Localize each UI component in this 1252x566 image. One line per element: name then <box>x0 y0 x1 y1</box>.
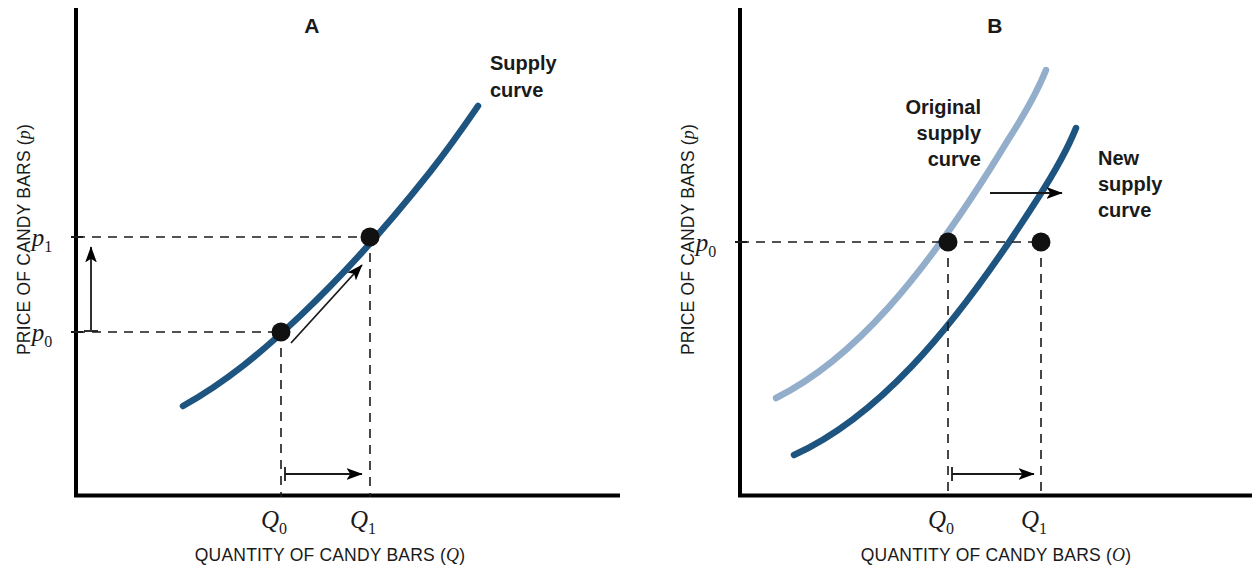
x-tick-label-q0: Q0 <box>928 506 954 537</box>
panel-a: A <box>0 0 626 566</box>
x-tick-label-q0: Q0 <box>261 506 287 537</box>
panel-letter-a: A <box>304 14 320 37</box>
point-new <box>1032 233 1051 252</box>
x-axis-title-a: QUANTITY OF CANDY BARS (Q) <box>195 545 465 565</box>
new-supply-curve-label-line3: curve <box>1098 199 1151 221</box>
axes-b <box>738 8 1252 497</box>
point-original <box>939 233 958 252</box>
original-supply-curve-label-line1: Original <box>905 96 981 118</box>
original-supply-curve-label-line3: curve <box>928 148 981 170</box>
y-axis-title-b: PRICE OF CANDY BARS (p) <box>678 124 698 355</box>
point-p1-q1 <box>361 228 380 247</box>
quantity-increase-arrow-a <box>285 467 362 481</box>
y-axis-title-a: PRICE OF CANDY BARS (p) <box>14 124 34 355</box>
original-supply-curve-b <box>776 70 1046 398</box>
point-p0-q0 <box>272 323 291 342</box>
movement-along-curve-arrow <box>291 265 362 343</box>
guide-lines-b <box>740 242 1041 497</box>
x-axis-title-b: QUANTITY OF CANDY BARS (O) <box>861 545 1131 565</box>
supply-curve-figure: A <box>0 0 1252 566</box>
panel-letter-b: B <box>987 14 1003 37</box>
new-supply-curve-label-line2: supply <box>1098 173 1163 195</box>
supply-curve-a <box>183 106 478 406</box>
new-supply-curve-b <box>794 128 1076 455</box>
price-increase-arrow <box>84 247 98 331</box>
supply-curve-label-line2: curve <box>490 79 543 101</box>
original-supply-curve-label-line2: supply <box>917 122 982 144</box>
supply-curve-label-line1: Supply <box>490 52 558 74</box>
panel-b: B p0 Q0 <box>626 0 1252 566</box>
new-supply-curve-label-line1: New <box>1098 147 1140 169</box>
quantity-increase-arrow-b <box>952 467 1034 481</box>
guide-lines-a <box>76 237 370 497</box>
x-tick-label-q1: Q1 <box>350 506 376 537</box>
x-tick-label-q1: Q1 <box>1021 506 1047 537</box>
